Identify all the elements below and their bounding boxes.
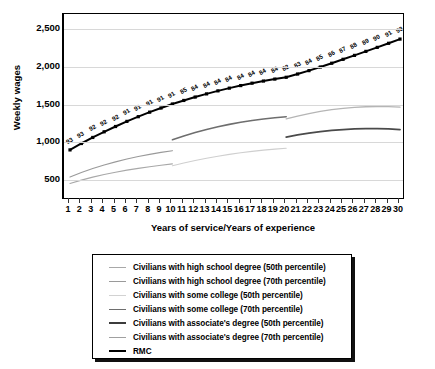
legend-swatch-icon (109, 322, 126, 324)
y-tick-label: 1,500 (8, 99, 60, 109)
legend-swatch-icon (109, 309, 126, 310)
legend-item[interactable]: RMC (109, 344, 351, 358)
series-marker (137, 115, 140, 118)
series-line (172, 117, 286, 140)
x-tick (239, 198, 240, 203)
series-line (70, 39, 400, 150)
x-tick (136, 198, 137, 203)
x-tick (182, 198, 183, 203)
x-tick (296, 198, 297, 203)
legend-swatch-icon (109, 350, 126, 352)
y-axis-tick-labels: 5001,0001,5002,0002,500 (0, 0, 60, 200)
x-tick (159, 198, 160, 203)
series-marker (296, 72, 299, 75)
x-tick (227, 198, 228, 203)
x-tick (79, 198, 80, 203)
series-line (286, 107, 400, 119)
series-marker (239, 84, 242, 87)
y-tick-label: 2,000 (8, 61, 60, 71)
x-tick (125, 198, 126, 203)
series-marker (159, 106, 162, 109)
legend-label: Civilians with associate's degree (70th … (133, 333, 324, 342)
legend-item[interactable]: Civilians with some college (70th percen… (109, 302, 351, 316)
x-tick (284, 198, 285, 203)
x-tick (114, 198, 115, 203)
series-marker (376, 46, 379, 49)
x-tick (205, 198, 206, 203)
series-marker (216, 89, 219, 92)
series-marker (273, 77, 276, 80)
y-tick-label: 500 (8, 174, 60, 184)
legend-swatch-icon (109, 295, 126, 296)
series-marker (205, 92, 208, 95)
legend-item[interactable]: Civilians with high school degree (70th … (109, 274, 351, 288)
x-tick (364, 198, 365, 203)
legend-swatch-icon (109, 281, 126, 282)
x-tick (170, 198, 171, 203)
legend-label: Civilians with high school degree (50th … (133, 263, 326, 272)
legend-label: RMC (133, 347, 152, 356)
chart-plot-area: Weekly wages 5001,0001,5002,0002,500 939… (0, 0, 435, 245)
gridline (64, 180, 403, 181)
x-tick (216, 198, 217, 203)
chart-figure: Weekly wages 5001,0001,5002,0002,500 939… (0, 0, 435, 369)
series-marker (68, 148, 71, 151)
legend-label: Civilians with high school degree (70th … (133, 277, 326, 286)
x-axis-title: Years of service/Years of experience (62, 222, 404, 233)
series-marker (194, 95, 197, 98)
x-tick (102, 198, 103, 203)
series-marker (398, 37, 401, 40)
legend-item[interactable]: Civilians with associate's degree (50th … (109, 316, 351, 330)
x-tick (341, 198, 342, 203)
series-line (172, 148, 286, 166)
legend-label: Civilians with associate's degree (50th … (133, 319, 324, 328)
series-marker (103, 130, 106, 133)
legend-label: Civilians with some college (70th percen… (133, 305, 303, 314)
x-tick (193, 198, 194, 203)
x-axis-tick-labels: 1234567891011121314151617181920212223242… (62, 204, 404, 218)
gridline (64, 67, 403, 68)
x-tick (68, 198, 69, 203)
series-marker (330, 62, 333, 65)
plot-canvas: 9393929292919191919185848484848484848482… (62, 13, 404, 198)
x-tick (398, 198, 399, 203)
series-marker (353, 54, 356, 57)
legend-item[interactable]: Civilians with associate's degree (70th … (109, 330, 351, 344)
x-tick (261, 198, 262, 203)
legend-label: Civilians with some college (50th percen… (133, 291, 303, 300)
legend-swatch-icon (109, 267, 126, 268)
series-marker (285, 76, 288, 79)
legend-swatch-icon (109, 337, 126, 338)
legend-item[interactable]: Civilians with high school degree (50th … (109, 260, 351, 274)
y-tick-label: 1,000 (8, 136, 60, 146)
x-tick (91, 198, 92, 203)
series-marker (125, 120, 128, 123)
series-marker (228, 87, 231, 90)
series-marker (364, 50, 367, 53)
x-tick (330, 198, 331, 203)
series-marker (114, 125, 117, 128)
x-tick (375, 198, 376, 203)
chart-legend: Civilians with high school degree (50th … (92, 254, 352, 359)
legend-item[interactable]: Civilians with some college (50th percen… (109, 288, 351, 302)
x-tick (148, 198, 149, 203)
series-marker (250, 82, 253, 85)
series-line (70, 151, 172, 177)
x-tick (387, 198, 388, 203)
y-tick-label: 2,500 (8, 23, 60, 33)
x-tick (352, 198, 353, 203)
series-marker (91, 136, 94, 139)
gridline (64, 29, 403, 30)
gridline (64, 105, 403, 106)
series-marker (182, 99, 185, 102)
x-tick-label: 30 (387, 204, 409, 214)
x-tick (318, 198, 319, 203)
gridline (64, 142, 403, 143)
series-marker (342, 58, 345, 61)
series-marker (148, 111, 151, 114)
x-tick (307, 198, 308, 203)
series-marker (387, 42, 390, 45)
series-line (286, 129, 400, 137)
series-marker (262, 79, 265, 82)
x-tick (250, 198, 251, 203)
